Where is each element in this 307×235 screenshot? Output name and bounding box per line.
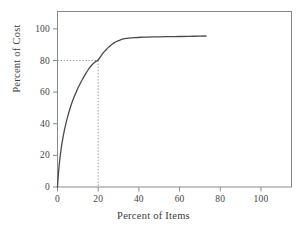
- y-tick-label-60: 60: [28, 87, 50, 97]
- x-tick-label-100: 100: [254, 194, 269, 204]
- x-tick-label-20: 20: [93, 194, 103, 204]
- y-tick-label-80: 80: [28, 56, 50, 66]
- x-axis-title: Percent of Items: [0, 210, 307, 221]
- y-axis-ticks: [53, 29, 58, 187]
- x-tick-label-80: 80: [215, 194, 225, 204]
- y-tick-label-40: 40: [28, 119, 50, 129]
- cost-curve-main: [58, 36, 207, 187]
- y-tick-label-100: 100: [28, 24, 50, 34]
- x-tick-label-40: 40: [134, 194, 144, 204]
- y-tick-label-20: 20: [28, 150, 50, 160]
- reference-guides: [58, 61, 99, 187]
- x-axis-ticks: [58, 187, 261, 192]
- y-tick-label-0: 0: [28, 182, 50, 192]
- x-tick-label-60: 60: [175, 194, 185, 204]
- y-axis-title: Percent of Cost: [11, 0, 22, 125]
- pareto-chart: 0 20 40 60 80 100 0 20 40 60 80 100 Perc…: [0, 0, 307, 235]
- plot-frame: [58, 12, 292, 188]
- x-tick-label-0: 0: [55, 194, 60, 204]
